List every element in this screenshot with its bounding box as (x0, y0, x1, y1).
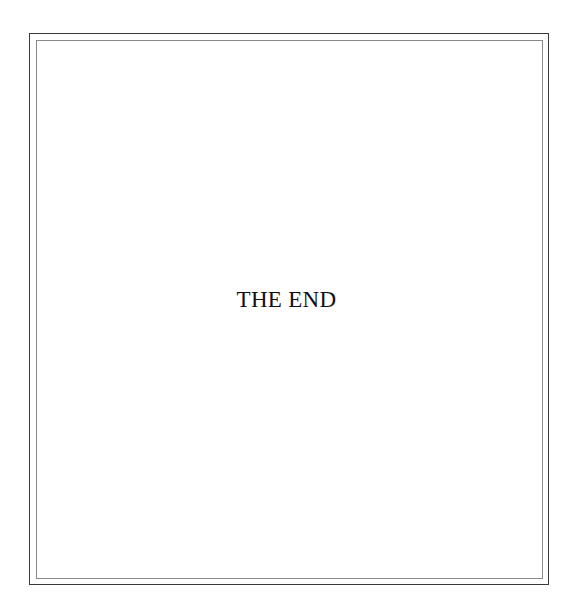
the-end-text: THE END (0, 286, 573, 314)
